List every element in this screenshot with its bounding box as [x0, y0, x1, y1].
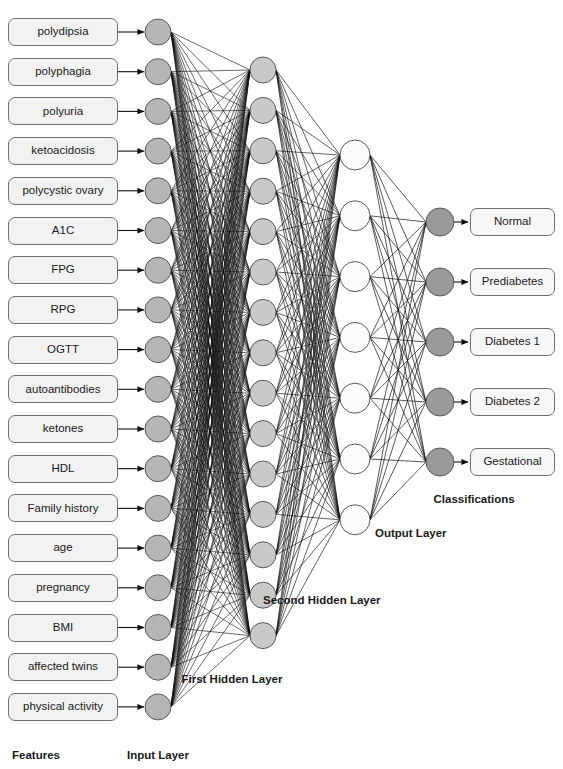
feature-box[interactable]: FPG: [8, 256, 118, 284]
edges-hidden2-to-output: [370, 155, 426, 520]
layer-label-classifications: Classifications: [434, 494, 515, 506]
classification-box[interactable]: Diabetes 2: [470, 388, 555, 416]
input-node-6: [145, 218, 171, 244]
feature-box[interactable]: RPG: [8, 296, 118, 324]
input-node-4: [145, 138, 171, 164]
feature-box[interactable]: Family history: [8, 494, 118, 522]
feature-box[interactable]: ketones: [8, 415, 118, 443]
arrows-feature-to-input: [118, 32, 144, 707]
feature-label: age: [53, 542, 72, 554]
hidden1-node-11: [250, 461, 276, 487]
input-node-9: [145, 337, 171, 363]
neural-network-diagram: polydipsiapolyphagiapolyuriaketoacidosis…: [0, 0, 563, 769]
hidden2-node-6: [340, 444, 370, 474]
hidden1-node-8: [250, 340, 276, 366]
feature-box[interactable]: autoantibodies: [8, 375, 118, 403]
hidden1-node-2: [250, 97, 276, 123]
edges-hidden1-to-hidden2: [276, 70, 340, 636]
layer-label-first-hidden: First Hidden Layer: [182, 674, 283, 686]
feature-label: ketones: [43, 423, 83, 435]
feature-label: polycystic ovary: [22, 185, 103, 197]
feature-box[interactable]: polycystic ovary: [8, 177, 118, 205]
feature-label: polyphagia: [35, 66, 91, 78]
hidden1-node-4: [250, 178, 276, 204]
input-node-10: [145, 376, 171, 402]
output-node-1: [426, 208, 454, 236]
classification-box[interactable]: Diabetes 1: [470, 328, 555, 356]
feature-box[interactable]: HDL: [8, 455, 118, 483]
classification-label: Diabetes 1: [485, 336, 540, 348]
hidden2-layer-nodes: [340, 140, 370, 535]
feature-box[interactable]: physical activity: [8, 693, 118, 721]
input-node-11: [145, 416, 171, 442]
feature-label: pregnancy: [36, 582, 90, 594]
feature-label: affected twins: [28, 661, 98, 673]
arrows-output-to-classification: [454, 222, 468, 462]
hidden2-node-5: [340, 383, 370, 413]
feature-label: autoantibodies: [26, 384, 101, 396]
hidden1-node-5: [250, 219, 276, 245]
input-node-13: [145, 495, 171, 521]
classification-label: Prediabetes: [482, 276, 543, 288]
input-node-16: [145, 615, 171, 641]
feature-box[interactable]: polydipsia: [8, 18, 118, 46]
output-node-5: [426, 448, 454, 476]
classification-label: Gestational: [483, 456, 541, 468]
feature-label: HDL: [51, 463, 74, 475]
layer-label-features: Features: [12, 750, 60, 762]
feature-box[interactable]: polyuria: [8, 97, 118, 125]
layer-label-second-hidden: Second Hidden Layer: [263, 595, 381, 607]
feature-box[interactable]: age: [8, 534, 118, 562]
feature-box[interactable]: ketoacidosis: [8, 137, 118, 165]
feature-box[interactable]: polyphagia: [8, 58, 118, 86]
input-layer-nodes: [145, 19, 171, 720]
input-node-18: [145, 694, 171, 720]
input-node-7: [145, 257, 171, 283]
feature-label: polydipsia: [37, 26, 88, 38]
input-node-2: [145, 59, 171, 85]
feature-label: physical activity: [23, 701, 103, 713]
hidden1-layer-nodes: [250, 57, 276, 649]
hidden1-node-6: [250, 259, 276, 285]
output-node-4: [426, 388, 454, 416]
hidden1-node-9: [250, 380, 276, 406]
input-node-1: [145, 19, 171, 45]
feature-box[interactable]: affected twins: [8, 653, 118, 681]
hidden1-node-12: [250, 501, 276, 527]
feature-label: BMI: [53, 622, 73, 634]
feature-label: A1C: [52, 225, 74, 237]
layer-label-input: Input Layer: [127, 750, 189, 762]
feature-box[interactable]: pregnancy: [8, 574, 118, 602]
feature-box[interactable]: A1C: [8, 217, 118, 245]
classification-box[interactable]: Prediabetes: [470, 268, 555, 296]
hidden1-node-1: [250, 57, 276, 83]
input-node-17: [145, 654, 171, 680]
output-layer-nodes: [426, 208, 454, 476]
layer-label-output: Output Layer: [375, 528, 447, 540]
hidden2-node-7: [340, 505, 370, 535]
hidden2-node-2: [340, 201, 370, 231]
classification-label: Normal: [494, 216, 531, 228]
feature-label: polyuria: [43, 106, 83, 118]
classification-box[interactable]: Gestational: [470, 448, 555, 476]
input-node-5: [145, 178, 171, 204]
hidden2-node-3: [340, 262, 370, 292]
feature-label: RPG: [51, 304, 76, 316]
feature-box[interactable]: BMI: [8, 614, 118, 642]
hidden1-node-13: [250, 542, 276, 568]
feature-box[interactable]: OGTT: [8, 336, 118, 364]
feature-label: FPG: [51, 264, 75, 276]
input-node-3: [145, 98, 171, 124]
feature-label: OGTT: [47, 344, 79, 356]
output-node-3: [426, 328, 454, 356]
hidden1-node-15: [250, 623, 276, 649]
classification-label: Diabetes 2: [485, 396, 540, 408]
hidden2-node-4: [340, 322, 370, 352]
hidden1-node-7: [250, 299, 276, 325]
hidden1-node-3: [250, 138, 276, 164]
input-node-12: [145, 456, 171, 482]
feature-label: ketoacidosis: [31, 145, 94, 157]
input-node-8: [145, 297, 171, 323]
classification-box[interactable]: Normal: [470, 208, 555, 236]
output-node-2: [426, 268, 454, 296]
